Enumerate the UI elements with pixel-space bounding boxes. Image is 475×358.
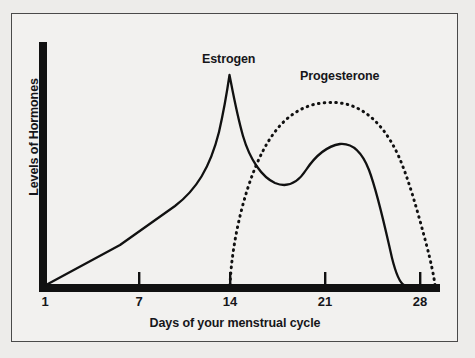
x-axis-line bbox=[39, 284, 440, 292]
x-axis-title: Days of your menstrual cycle bbox=[45, 316, 425, 330]
estrogen-curve bbox=[46, 75, 404, 285]
x-tick-label-21: 21 bbox=[305, 294, 345, 309]
x-tick-label-28: 28 bbox=[400, 294, 440, 309]
x-tick-label-1: 1 bbox=[25, 294, 65, 309]
hormone-cycle-chart: Levels of Hormones Days of your menstrua… bbox=[0, 0, 475, 358]
x-tick-label-7: 7 bbox=[119, 294, 159, 309]
series-label-progesterone: Progesterone bbox=[300, 69, 379, 83]
progesterone-curve bbox=[230, 102, 435, 285]
x-tick-day-21 bbox=[324, 272, 326, 284]
x-tick-label-14: 14 bbox=[210, 294, 250, 309]
x-tick-day-28 bbox=[419, 272, 421, 284]
y-axis-title: Levels of Hormones bbox=[27, 67, 41, 207]
x-tick-day-7 bbox=[138, 272, 140, 284]
series-label-estrogen: Estrogen bbox=[202, 52, 255, 66]
